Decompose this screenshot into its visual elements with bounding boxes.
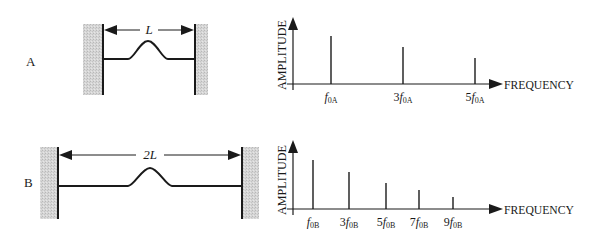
arrowhead-right-icon [228,150,241,160]
right-wall [242,147,259,219]
panel-label: B [24,175,33,190]
harmonic-subscript: 0B [453,221,462,230]
arrowhead-left-icon [59,150,72,160]
left-wall [83,24,103,95]
arrowhead-left-icon [104,25,117,35]
harmonic-label: 5f0A [465,90,484,105]
y-axis-label: AMPLITUDE [275,145,289,215]
panel-b: B2LAMPLITUDEFREQUENCYf0B3f0B5f0B7f0B9f0B [24,140,574,230]
y-axis-arrow-icon [288,17,298,30]
x-axis-arrow-icon [489,79,503,89]
harmonic-subscript: 0B [310,221,319,230]
x-axis-label: FREQUENCY [504,78,574,92]
harmonic-label: f0A [324,90,337,105]
harmonic-label: 3f0B [340,215,359,230]
harmonic-label: f0B [307,215,320,230]
length-label: L [144,22,152,37]
x-axis-label: FREQUENCY [504,203,574,217]
harmonic-subscript: 0A [403,96,413,105]
length-label: 2L [143,147,157,162]
arrowhead-right-icon [181,25,194,35]
harmonic-label: 5f0B [377,215,396,230]
right-wall [195,24,208,95]
y-axis-label: AMPLITUDE [275,20,289,90]
harmonic-subscript: 0A [475,96,485,105]
x-axis-arrow-icon [489,204,503,214]
left-wall [40,147,58,219]
panel-a: ALAMPLITUDEFREQUENCYf0A3f0A5f0A [26,17,574,105]
harmonic-subscript: 0B [386,221,395,230]
y-axis-arrow-icon [288,140,298,153]
spectrum-chart: AMPLITUDEFREQUENCYf0A3f0A5f0A [275,17,574,105]
figure-canvas: ALAMPLITUDEFREQUENCYf0A3f0A5f0A B2LAMPLI… [0,0,593,244]
spectrum-chart: AMPLITUDEFREQUENCYf0B3f0B5f0B7f0B9f0B [275,140,574,230]
harmonic-label: 9f0B [444,215,463,230]
string-with-pulse [58,168,242,186]
harmonic-label: 3f0A [393,90,412,105]
harmonic-subscript: 0B [349,221,358,230]
string-with-pulse [103,41,195,59]
harmonic-label: 7f0B [410,215,429,230]
harmonic-subscript: 0A [328,96,338,105]
harmonic-subscript: 0B [419,221,428,230]
panel-label: A [26,54,36,69]
